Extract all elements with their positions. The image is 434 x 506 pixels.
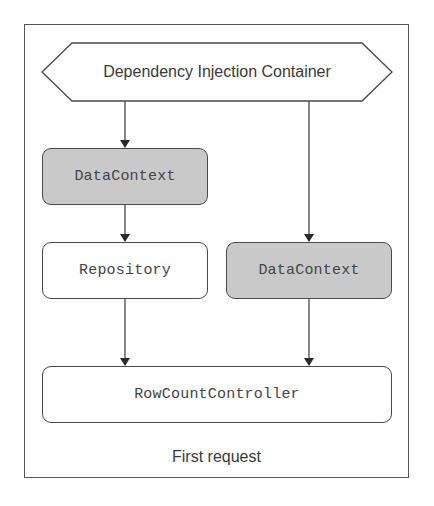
frame-caption: First request xyxy=(24,448,409,466)
node-datacontext-2: DataContext xyxy=(226,242,392,299)
diagram-canvas: Dependency Injection Container DataConte… xyxy=(0,0,434,506)
node-datacontext-1: DataContext xyxy=(42,148,208,205)
node-rowcountcontroller: RowCountController xyxy=(42,366,392,423)
di-container-label: Dependency Injection Container xyxy=(42,43,392,101)
node-repository: Repository xyxy=(42,242,208,299)
